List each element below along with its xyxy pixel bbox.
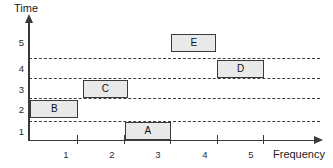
x-tick-label-2: 2 [100,149,124,160]
bar-B: B [30,100,78,118]
y-axis-title: Time [14,2,38,14]
gridline-3-5 [29,78,320,79]
y-tick-label-3: 3 [10,84,24,95]
x-axis-title: Frequency [273,148,325,160]
bar-label-B: B [51,104,58,114]
bar-E: E [171,34,216,52]
x-tick-1 [77,135,78,144]
x-tick-label-3: 3 [146,149,170,160]
bar-label-A: A [144,126,151,136]
gridline-2-5 [29,98,320,99]
y-tick-label-1: 1 [10,126,24,137]
x-tick-label-5: 5 [239,149,263,160]
x-tick-label-1: 1 [54,149,78,160]
x-axis-arrow-icon [314,136,323,144]
bar-label-C: C [102,84,109,94]
gridline-1-5 [29,121,320,122]
x-tick-4 [217,135,218,144]
time-frequency-chart: Time Frequency 12345 12345 ABCDE [0,0,333,168]
y-tick-label-5: 5 [10,37,24,48]
y-axis-line [28,22,30,141]
y-tick-label-4: 4 [10,63,24,74]
x-tick-5 [263,135,264,144]
y-axis-arrow-icon [25,14,33,23]
bar-A: A [125,122,171,140]
y-tick-label-2: 2 [10,104,24,115]
bar-D: D [217,60,263,78]
bar-label-D: D [237,64,244,74]
x-tick-label-4: 4 [193,149,217,160]
bar-C: C [83,80,128,98]
x-axis-line [29,140,315,142]
gridline-4-5 [29,58,320,59]
bar-label-E: E [190,38,197,48]
